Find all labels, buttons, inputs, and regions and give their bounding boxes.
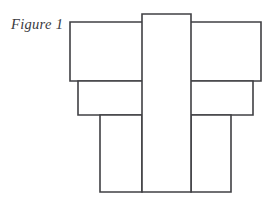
figure-drawing [0,0,276,208]
lower-right-block [191,115,231,192]
figure-container: Figure 1 [0,0,276,208]
central-vertical-bar [142,14,191,192]
lower-left-block [100,115,142,192]
